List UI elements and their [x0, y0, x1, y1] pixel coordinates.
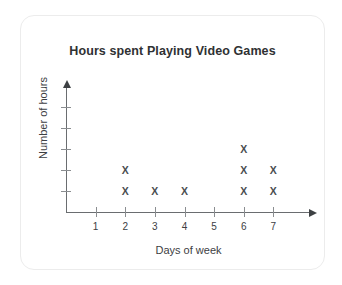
x-axis-label: Days of week [66, 244, 311, 256]
x-axis-tick-label: 5 [204, 221, 224, 232]
x-axis-tick-label: 4 [175, 221, 195, 232]
x-axis-tick [273, 207, 274, 217]
y-axis-tick [61, 191, 71, 192]
y-axis-tick [61, 107, 71, 108]
data-marker: X [236, 184, 252, 198]
chart-card: Hours spent Playing Video Games 1234567 … [20, 15, 325, 270]
data-marker: X [265, 163, 281, 177]
data-marker: X [236, 163, 252, 177]
data-marker: X [265, 184, 281, 198]
x-axis-tick-label: 2 [115, 221, 135, 232]
x-axis-arrow-icon [309, 209, 317, 217]
x-axis-tick-label: 1 [86, 221, 106, 232]
x-axis-tick [125, 207, 126, 217]
x-axis-tick [155, 207, 156, 217]
y-axis-label: Number of hours [37, 58, 49, 178]
x-axis-tick-label: 3 [145, 221, 165, 232]
y-axis-tick [61, 128, 71, 129]
data-marker: X [177, 184, 193, 198]
y-axis-line [66, 87, 67, 213]
x-axis-tick [185, 207, 186, 217]
data-marker: X [147, 184, 163, 198]
x-axis-tick-label: 7 [263, 221, 283, 232]
x-axis-tick-label: 6 [234, 221, 254, 232]
x-axis-tick [244, 207, 245, 217]
y-axis-arrow-icon [63, 80, 71, 88]
data-marker: X [236, 142, 252, 156]
y-axis-tick [61, 170, 71, 171]
x-axis-tick [96, 207, 97, 217]
data-marker: X [117, 184, 133, 198]
x-axis-tick [214, 207, 215, 217]
data-marker: X [117, 163, 133, 177]
plot-area: 1234567 XXXXXXXXX Number of hours Days o… [21, 16, 326, 271]
y-axis-tick [61, 149, 71, 150]
